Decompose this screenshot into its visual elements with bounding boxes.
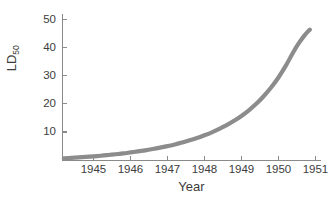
- x-tick-mark: [93, 156, 94, 160]
- y-tick-label: 50: [30, 14, 56, 26]
- x-axis-line: [62, 160, 321, 161]
- x-tick-label: 1947: [147, 164, 187, 176]
- x-tick-label: 1950: [258, 164, 298, 176]
- x-tick-mark: [278, 156, 279, 160]
- x-tick-mark: [241, 156, 242, 160]
- x-tick-mark: [167, 156, 168, 160]
- y-tick-mark: [63, 47, 67, 48]
- series-line-ld50: [64, 30, 310, 159]
- y-tick-mark: [63, 75, 67, 76]
- x-tick-label: 1949: [221, 164, 261, 176]
- y-tick-mark: [63, 103, 67, 104]
- x-axis-label: Year: [62, 180, 321, 193]
- x-tick-label: 1946: [110, 164, 150, 176]
- y-tick-label: 40: [30, 42, 56, 54]
- y-tick-mark: [63, 131, 67, 132]
- x-tick-label: 1948: [184, 164, 224, 176]
- y-axis-label-subscript: 50: [11, 45, 21, 54]
- y-axis-line: [62, 14, 63, 161]
- x-tick-mark: [315, 156, 316, 160]
- y-tick-label: 20: [30, 98, 56, 110]
- x-tick-label: 1951: [295, 164, 333, 176]
- x-tick-label: 1945: [73, 164, 113, 176]
- y-tick-mark: [63, 19, 67, 20]
- y-axis-label-base: LD: [4, 55, 19, 72]
- y-tick-label: 30: [30, 70, 56, 82]
- x-tick-mark: [204, 156, 205, 160]
- chart-figure: 1020304050 1945194619471948194919501951 …: [0, 0, 333, 201]
- x-tick-mark: [130, 156, 131, 160]
- y-axis-label: LD50: [5, 51, 24, 71]
- y-tick-label: 10: [30, 126, 56, 138]
